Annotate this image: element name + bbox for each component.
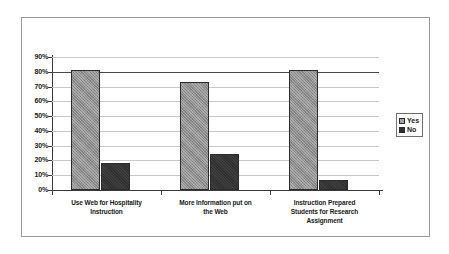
bar-no	[210, 154, 239, 190]
x-axis-tick	[52, 190, 53, 195]
y-axis-tick-label: 20%	[22, 156, 48, 163]
y-axis-tick-mark	[48, 190, 52, 191]
y-axis-tick-mark	[48, 160, 52, 161]
y-axis-tick-mark	[48, 131, 52, 132]
y-axis-labels: 0%10%20%30%40%50%60%70%80%90%	[18, 0, 48, 254]
x-axis-category-label: Instruction PreparedStudents for Researc…	[270, 198, 379, 225]
y-axis-tick-label: 0%	[22, 186, 48, 193]
y-axis-tick-mark	[48, 87, 52, 88]
x-axis-category-label-line: Instruction Prepared	[270, 198, 379, 207]
bar-no	[319, 180, 348, 190]
y-axis-tick-mark	[48, 116, 52, 117]
x-axis-tick	[161, 190, 162, 195]
gridline	[52, 116, 379, 117]
legend-item-no[interactable]: No	[399, 125, 419, 134]
gridline	[52, 146, 379, 147]
chart-legend[interactable]: YesNo	[396, 113, 423, 137]
bar-yes	[180, 82, 209, 190]
y-axis-tick-label: 40%	[22, 127, 48, 134]
gridline	[52, 57, 379, 58]
plot-area	[52, 57, 379, 190]
legend-item-yes[interactable]: Yes	[399, 116, 419, 125]
y-axis-tick-label: 70%	[22, 83, 48, 90]
x-axis-tick	[379, 190, 380, 195]
y-axis-tick-label: 90%	[22, 53, 48, 60]
gridline	[52, 87, 379, 88]
y-axis-tick-label: 50%	[22, 112, 48, 119]
legend-label: No	[407, 126, 416, 134]
bar-yes	[71, 70, 100, 190]
y-axis-tick-label: 80%	[22, 68, 48, 75]
chart-figure: 0%10%20%30%40%50%60%70%80%90% Use Web fo…	[0, 0, 449, 254]
y-axis-tick-mark	[48, 57, 52, 58]
gridline	[52, 131, 379, 132]
x-axis-category-label-line: Students for Research	[270, 207, 379, 216]
x-axis-category-label: Use Web for HospitalityInstruction	[52, 198, 161, 216]
y-axis-tick-mark	[48, 72, 52, 73]
x-axis-category-label-line: Instruction	[52, 207, 161, 216]
legend-label: Yes	[407, 117, 419, 125]
x-axis-category-label-line: Use Web for Hospitality	[52, 198, 161, 207]
y-axis-tick-mark	[48, 146, 52, 147]
legend-swatch-no-icon	[399, 127, 405, 133]
bar-no	[101, 163, 130, 190]
bar-yes	[289, 70, 318, 190]
y-axis-tick-label: 10%	[22, 171, 48, 178]
x-axis-category-label-line: Assignment	[270, 216, 379, 225]
gridline	[52, 72, 379, 73]
legend-swatch-yes-icon	[399, 118, 405, 124]
x-axis-category-label: More Information put onthe Web	[161, 198, 270, 216]
y-axis-tick-mark	[48, 175, 52, 176]
x-axis-line	[52, 190, 383, 191]
y-axis-tick-mark	[48, 101, 52, 102]
x-axis-tick	[270, 190, 271, 195]
x-axis-category-label-line: More Information put on	[161, 198, 270, 207]
x-axis-category-label-line: the Web	[161, 207, 270, 216]
y-axis-tick-label: 30%	[22, 142, 48, 149]
y-axis-tick-label: 60%	[22, 97, 48, 104]
gridline	[52, 101, 379, 102]
